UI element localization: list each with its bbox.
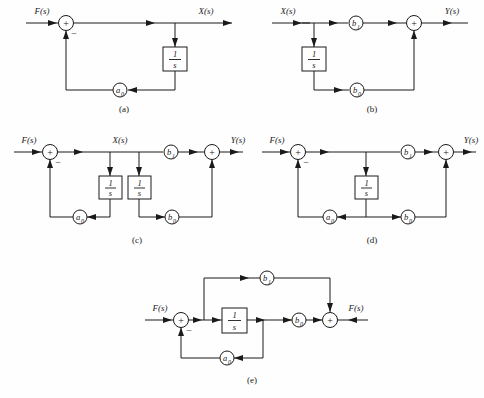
label-output-a: X(s) bbox=[198, 6, 214, 16]
gain-b1-label-b: b bbox=[352, 18, 356, 28]
arrowhead-a0-e bbox=[234, 355, 243, 361]
summer-minus-d: − bbox=[303, 157, 309, 168]
arrowhead-b0-up-d bbox=[443, 160, 449, 169]
gain-a0-sub-e: 0 bbox=[228, 359, 231, 365]
integrator-right-num-c: 1 bbox=[137, 178, 141, 188]
gain-a0-label-e: a bbox=[223, 353, 227, 363]
arrowhead-b0-in-e bbox=[283, 317, 292, 323]
summer-minus-a: − bbox=[71, 28, 77, 39]
caption-a: (a) bbox=[119, 104, 129, 114]
diagram-a: F(s) + − X(s) 1 s a 0 (a) bbox=[26, 6, 232, 114]
gain-b1-sub-e: 1 bbox=[268, 279, 271, 285]
arrowhead-drop-left-c bbox=[107, 167, 113, 176]
arrowhead-forward-d bbox=[320, 149, 329, 155]
summer-plus-c: + bbox=[47, 147, 53, 158]
arrowhead-drop-right-c bbox=[136, 167, 142, 176]
gain-b0-sub-d: 0 bbox=[409, 218, 412, 224]
arrowhead-input-d bbox=[280, 149, 289, 155]
arrowhead-b0-d bbox=[392, 214, 401, 220]
arrowhead-output-c bbox=[230, 149, 239, 155]
arrowhead-a0-c bbox=[87, 214, 96, 220]
gain-b1-label-c: b bbox=[167, 147, 171, 157]
arrowhead-input-c bbox=[32, 149, 41, 155]
arrowhead-b1-sum-d bbox=[424, 149, 433, 155]
diagram-d: F(s) + − b 1 + Y(s) 1 s a 0 bbox=[262, 135, 478, 245]
label-output-b: Y(s) bbox=[445, 6, 460, 16]
arrowhead-b0-up-b bbox=[411, 31, 417, 40]
caption-d: (d) bbox=[367, 235, 378, 245]
arrowhead-a0-up-d bbox=[295, 160, 301, 169]
caption-b: (b) bbox=[367, 104, 378, 114]
arrowhead-output-a bbox=[223, 20, 232, 26]
arrowhead-b0-up-c bbox=[209, 160, 215, 169]
arrowhead-output-b bbox=[443, 20, 452, 26]
summer-plus-b: + bbox=[411, 18, 417, 29]
arrowhead-forward-a bbox=[146, 20, 155, 26]
block-diagram-figure: F(s) + − X(s) 1 s a 0 (a) X(s) bbox=[0, 0, 484, 398]
integrator-num-e: 1 bbox=[232, 310, 236, 320]
integrator-num-b: 1 bbox=[312, 49, 316, 59]
arrowhead-int-out-e bbox=[256, 317, 265, 323]
arrowhead-top-b bbox=[329, 20, 338, 26]
caption-e: (e) bbox=[247, 375, 257, 385]
arrowhead-drop-d bbox=[363, 167, 369, 176]
gain-a0-label-d: a bbox=[326, 212, 330, 222]
label-output-e: F(s) bbox=[348, 303, 364, 313]
diagram-c: F(s) + − X(s) b 1 + Y(s) 1 s 1 s bbox=[14, 135, 245, 245]
caption-c: (c) bbox=[132, 235, 142, 245]
arrowhead-b1-sum-b bbox=[388, 20, 397, 26]
integrator-num-d: 1 bbox=[364, 178, 368, 188]
label-input-b: X(s) bbox=[280, 6, 296, 16]
gain-b0-sub-b: 0 bbox=[358, 91, 361, 97]
summer-minus-e: − bbox=[186, 325, 192, 336]
gain-a0-sub-a: 0 bbox=[121, 91, 124, 97]
gain-a0-label-a: a bbox=[116, 85, 120, 95]
gain-b1-sub-d: 1 bbox=[409, 153, 412, 159]
gain-a0-sub-d: 0 bbox=[331, 218, 334, 224]
summer-out-plus-d: + bbox=[443, 147, 449, 158]
arrowhead-b1-down-e bbox=[327, 303, 333, 312]
label-input-a: F(s) bbox=[34, 6, 50, 16]
diagram-e: F(s) + − 1 s b 1 b 0 + F(s) bbox=[145, 271, 368, 385]
gain-b1-label-d: b bbox=[404, 147, 408, 157]
gain-a0-label-c: a bbox=[76, 212, 80, 222]
arrowhead-b1-sum-c bbox=[189, 149, 198, 155]
gain-b0-sub-c: 0 bbox=[173, 218, 176, 224]
integrator-left-num-c: 1 bbox=[108, 178, 112, 188]
gain-b0-label-c: b bbox=[168, 212, 172, 222]
label-node-c: X(s) bbox=[112, 135, 128, 145]
summer-plus-a: + bbox=[63, 18, 69, 29]
gain-b0-sub-e: 0 bbox=[300, 321, 303, 327]
arrowhead-fb-a bbox=[128, 87, 137, 93]
summer-out-plus-c: + bbox=[209, 147, 215, 158]
integrator-num-a: 1 bbox=[173, 49, 177, 59]
arrowhead-a0-up-e bbox=[178, 328, 184, 337]
arrowhead-input-b bbox=[293, 20, 302, 26]
arrowhead-b1-e bbox=[240, 275, 249, 281]
gain-b0-label-d: b bbox=[404, 212, 408, 222]
arrowhead-bottom-b bbox=[334, 87, 343, 93]
arrowhead-a0-up-c bbox=[47, 160, 53, 169]
gain-b0-label-e: b bbox=[295, 315, 299, 325]
label-input-e: F(s) bbox=[152, 303, 168, 313]
arrowhead-b0-sum-e bbox=[313, 317, 322, 323]
arrowhead-output-d bbox=[463, 149, 472, 155]
arrowhead-drop-a bbox=[172, 38, 178, 47]
arrowhead-drop-b bbox=[311, 38, 317, 47]
arrowhead-output-e bbox=[348, 317, 357, 323]
gain-b1-sub-b: 1 bbox=[357, 24, 360, 30]
diagram-b: X(s) b 1 + Y(s) 1 s b 0 (b) bbox=[272, 6, 468, 114]
label-input-c: F(s) bbox=[21, 135, 37, 145]
arrowhead-sum-int-e bbox=[193, 317, 202, 323]
summer-plus-e: + bbox=[178, 315, 184, 326]
arrowhead-fb-up-a bbox=[63, 31, 69, 40]
label-output-d: Y(s) bbox=[464, 135, 479, 145]
arrowhead-forward-c bbox=[74, 149, 83, 155]
summer-out-plus-e: + bbox=[327, 315, 333, 326]
gain-b1-sub-c: 1 bbox=[172, 153, 175, 159]
gain-a0-sub-c: 0 bbox=[81, 218, 84, 224]
gain-b0-label-b: b bbox=[353, 85, 357, 95]
arrowhead-a0-d bbox=[337, 214, 346, 220]
label-input-d: F(s) bbox=[269, 135, 285, 145]
gain-b1-label-e: b bbox=[263, 273, 267, 283]
